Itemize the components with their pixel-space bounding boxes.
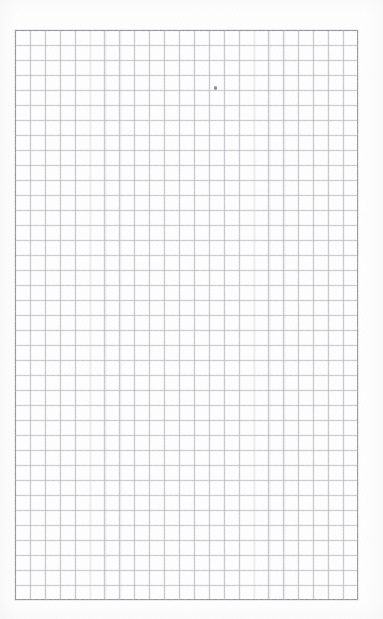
grid-paper-page: A scanned blank sheet of quadrille (grap… [0, 0, 383, 619]
pencil-dot-mark [214, 86, 217, 90]
grid-outer-border [15, 30, 358, 600]
grid-block [15, 30, 358, 600]
